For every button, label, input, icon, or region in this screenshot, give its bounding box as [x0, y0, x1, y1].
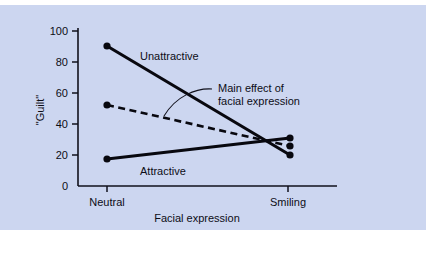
main-effect-annotation-line2: facial expression	[218, 95, 300, 107]
data-point-unattractive-neutral	[103, 42, 110, 49]
data-point-attractive-smiling	[286, 134, 293, 141]
x-axis-title: Facial expression	[154, 212, 240, 224]
series-label-attractive: Attractive	[140, 165, 186, 177]
x-tick-label-neutral: Neutral	[89, 196, 124, 208]
series-line-attractive	[107, 138, 290, 159]
x-tick-label-smiling: Smiling	[270, 196, 306, 208]
data-point-main-effect-neutral	[103, 101, 110, 108]
data-point-attractive-neutral	[103, 155, 110, 162]
y-tick-label-40: 40	[56, 118, 68, 130]
main-effect-annotation-line1: Main effect of	[218, 82, 285, 94]
y-axis-title: "Guilt"	[34, 95, 46, 126]
y-tick-label-20: 20	[56, 149, 68, 161]
y-tick-label-80: 80	[56, 56, 68, 68]
data-point-unattractive-smiling	[286, 151, 293, 158]
figure-container: 100 80 60 40 20 0 "Guilt" Neutral Smilin…	[0, 0, 445, 254]
y-tick-label-100: 100	[50, 25, 68, 37]
series-label-unattractive: Unattractive	[140, 50, 199, 62]
y-tick-label-60: 60	[56, 87, 68, 99]
y-tick-label-0: 0	[62, 180, 68, 192]
line-chart: 100 80 60 40 20 0 "Guilt" Neutral Smilin…	[0, 0, 445, 254]
data-point-main-effect-smiling	[286, 142, 293, 149]
